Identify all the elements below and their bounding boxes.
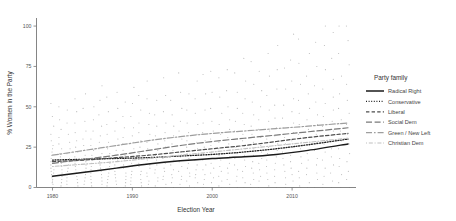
scatter-point	[101, 85, 102, 86]
scatter-point	[60, 156, 61, 157]
scatter-point	[139, 147, 140, 148]
scatter-point	[51, 158, 52, 159]
scatter-point	[85, 164, 86, 165]
scatter-point	[180, 121, 181, 122]
scatter-point	[266, 139, 267, 140]
scatter-point	[85, 161, 86, 162]
scatter-point	[180, 92, 181, 93]
scatter-point	[266, 172, 267, 173]
scatter-point	[252, 101, 253, 102]
scatter-point	[156, 100, 157, 101]
scatter-point	[285, 177, 286, 178]
scatter-point	[74, 122, 75, 123]
scatter-point	[117, 92, 118, 93]
scatter-point	[75, 166, 76, 167]
scatter-point	[173, 160, 174, 161]
scatter-point	[188, 163, 189, 164]
scatter-point	[125, 155, 126, 156]
scatter-point	[259, 169, 260, 170]
scatter-point	[227, 137, 228, 138]
scatter-point	[197, 80, 198, 81]
scatter-point	[60, 185, 61, 186]
x-tick-label: 2010	[286, 193, 298, 199]
scatter-point	[52, 148, 53, 149]
scatter-point	[117, 160, 118, 161]
scatter-point	[109, 163, 110, 164]
scatter-point	[138, 163, 139, 164]
scatter-point	[155, 169, 156, 170]
scatter-point	[309, 182, 310, 183]
scatter-point	[325, 103, 326, 104]
scatter-point	[186, 109, 187, 110]
scatter-point	[274, 118, 275, 119]
scatter-point	[149, 134, 150, 135]
scatter-point	[188, 158, 189, 159]
scatter-point	[59, 119, 60, 120]
scatter-point	[245, 166, 246, 167]
scatter-point	[75, 147, 76, 148]
scatter-point	[189, 185, 190, 186]
scatter-point	[133, 148, 134, 149]
scatter-point	[308, 160, 309, 161]
scatter-point	[317, 158, 318, 159]
legend-label-conservative: Conservative	[388, 99, 421, 105]
scatter-point	[50, 134, 51, 135]
scatter-point	[74, 156, 75, 157]
scatter-trend-chart: 0255075100 1980199020002010 % Women in t…	[0, 0, 456, 221]
scatter-point	[138, 132, 139, 133]
scatter-point	[187, 168, 188, 169]
scatter-point	[338, 148, 339, 149]
scatter-point	[165, 122, 166, 123]
scatter-point	[284, 137, 285, 138]
scatter-point	[52, 116, 53, 117]
scatter-point	[290, 161, 291, 162]
scatter-point	[260, 106, 261, 107]
scatter-point	[108, 176, 109, 177]
scatter-point	[91, 155, 92, 156]
scatter-point	[140, 140, 141, 141]
scatter-point	[84, 121, 85, 122]
scatter-point	[275, 163, 276, 164]
scatter-point	[154, 114, 155, 115]
scatter-point	[50, 168, 51, 169]
scatter-point	[90, 145, 91, 146]
scatter-point	[314, 85, 315, 86]
scatter-point	[90, 169, 91, 170]
scatter-point	[259, 180, 260, 181]
scatter-point	[114, 130, 115, 131]
scatter-point	[178, 171, 179, 172]
scatter-point	[346, 179, 347, 180]
scatter-point	[69, 158, 70, 159]
scatter-point	[282, 118, 283, 119]
scatter-point	[227, 168, 228, 169]
scatter-point	[123, 150, 124, 151]
scatter-point	[140, 179, 141, 180]
scatter-point	[283, 105, 284, 106]
scatter-point	[300, 148, 301, 149]
scatter-point	[308, 93, 309, 94]
scatter-point	[178, 72, 179, 73]
scatter-point	[229, 184, 230, 185]
scatter-point	[66, 184, 67, 185]
scatter-point	[179, 184, 180, 185]
scatter-point	[51, 151, 52, 152]
scatter-point	[75, 169, 76, 170]
scatter-point	[173, 169, 174, 170]
scatter-point	[165, 132, 166, 133]
chart-figure: 0255075100 1980199020002010 % Women in t…	[0, 0, 456, 221]
y-tick-label: 25	[26, 144, 32, 150]
scatter-point	[116, 184, 117, 185]
legend-label-social-dem: Social Dem	[388, 119, 417, 125]
scatter-point	[299, 185, 300, 186]
scatter-point	[164, 171, 165, 172]
scatter-point	[204, 179, 205, 180]
scatter-point	[218, 142, 219, 143]
scatter-point	[269, 130, 270, 131]
scatter-point	[83, 108, 84, 109]
scatter-point	[316, 164, 317, 165]
scatter-point	[162, 158, 163, 159]
scatter-point	[266, 166, 267, 167]
scatter-point	[138, 122, 139, 123]
scatter-point	[293, 98, 294, 99]
scatter-point	[333, 130, 334, 131]
